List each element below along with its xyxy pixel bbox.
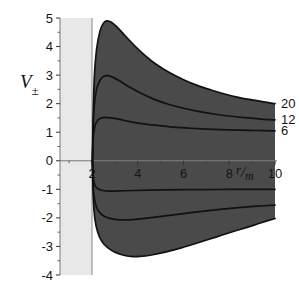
effective-potential-figure: -4-3-2-101234524681020126V±r/m [0,0,299,292]
y-tick-label: -2 [41,210,53,225]
y-tick-label: 4 [46,39,53,54]
x-tick-label: 6 [180,166,187,181]
svg-text:m: m [245,169,254,183]
x-tick-label: 4 [134,166,141,181]
upper-allowed-region [92,21,275,161]
x-tick-label: 10 [268,166,282,181]
y-tick-label: -3 [41,239,53,254]
curve-annotation-label: 6 [281,123,288,138]
horizon-shaded-band [60,18,92,275]
y-tick-label: 3 [46,68,53,83]
curve-annotation-label: 20 [281,96,295,111]
x-tick-label: 8 [226,166,233,181]
plot-canvas: -4-3-2-101234524681020126V±r/m [0,0,299,292]
y-tick-label: -1 [41,182,53,197]
y-axis-label: V± [20,71,39,98]
y-tick-label: 1 [46,125,53,140]
y-tick-label: 5 [46,11,53,26]
y-tick-label: 0 [46,153,53,168]
y-tick-label: 2 [46,96,53,111]
y-tick-label: -4 [41,268,53,283]
